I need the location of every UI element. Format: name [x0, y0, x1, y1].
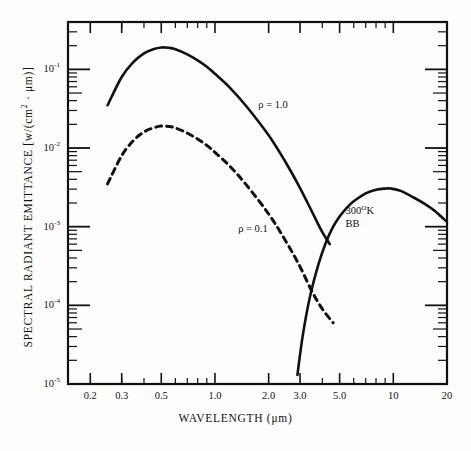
- y-tick-label: 10-5: [14, 376, 60, 389]
- x-tick-label: 0.3: [102, 390, 142, 401]
- annotation-rho-0-1: ρ = 0.1: [238, 223, 268, 235]
- annotation-blackbody: 300OK BB: [346, 204, 375, 230]
- annotation-rho-1: ρ = 1.0: [258, 99, 288, 111]
- chart-canvas: [0, 0, 471, 451]
- x-tick-label: 20: [427, 390, 467, 401]
- bb-temperature: 300OK: [346, 205, 375, 216]
- x-axis-title: WAVELENGTH (μm): [0, 412, 471, 424]
- y-axis-title: SPECTRAL RADIANT EMITTANCE [w/(cm2 · μm)…: [20, 42, 34, 372]
- series-curve-0: [108, 47, 330, 244]
- y-tick-exponent: -5: [54, 376, 60, 384]
- axis-frame: [68, 22, 447, 384]
- y-tick-mantissa: 10: [44, 220, 55, 231]
- axis-ticks: [68, 22, 447, 384]
- series-curve-1: [108, 126, 334, 323]
- y-tick-label: 10-4: [14, 297, 60, 310]
- bb-abbrev: BB: [346, 218, 360, 229]
- y-tick-label: 10-2: [14, 140, 60, 153]
- spectral-emittance-figure: WAVELENGTH (μm) SPECTRAL RADIANT EMITTAN…: [0, 0, 471, 451]
- x-tick-label: 5.0: [320, 390, 360, 401]
- y-tick-mantissa: 10: [44, 63, 55, 74]
- x-tick-label: 0.5: [141, 390, 181, 401]
- x-tick-label: 1.0: [195, 390, 235, 401]
- x-tick-label: 10: [373, 390, 413, 401]
- y-tick-mantissa: 10: [44, 142, 55, 153]
- x-tick-label: 3.0: [280, 390, 320, 401]
- y-tick-exponent: -3: [54, 219, 60, 227]
- y-tick-label: 10-3: [14, 219, 60, 232]
- y-tick-exponent: -2: [54, 140, 60, 148]
- y-tick-mantissa: 10: [44, 378, 55, 389]
- y-tick-exponent: -1: [54, 61, 60, 69]
- y-tick-exponent: -4: [54, 297, 60, 305]
- y-tick-mantissa: 10: [44, 299, 55, 310]
- plot-frame: [68, 22, 447, 384]
- data-curves: [108, 47, 447, 375]
- y-tick-label: 10-1: [14, 61, 60, 74]
